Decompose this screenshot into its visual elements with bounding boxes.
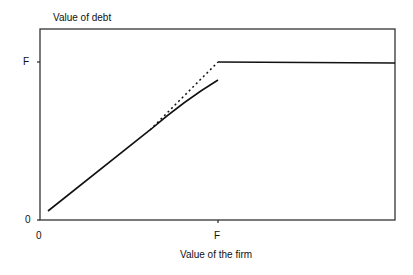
dotted-line <box>150 62 218 130</box>
x-tick-label-F: F <box>214 230 220 241</box>
plot-frame <box>40 29 395 220</box>
face-value-line <box>218 62 395 63</box>
x-axis-label: Value of the firm <box>180 249 252 260</box>
y-tick-label-F: F <box>23 56 29 67</box>
y-axis-label: Value of debt <box>53 12 111 23</box>
y-tick-label-0: 0 <box>25 214 31 225</box>
chart-canvas <box>0 0 413 275</box>
debt-value-curve <box>48 80 218 211</box>
x-tick-label-0: 0 <box>36 230 42 241</box>
